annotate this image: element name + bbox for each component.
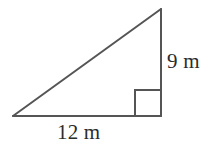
triangle-figure: 9 m 12 m [0, 0, 222, 147]
triangle-drawing [0, 0, 222, 147]
horizontal-leg-label: 12 m [57, 122, 100, 143]
right-angle-marker-icon [135, 90, 161, 116]
vertical-leg-label: 9 m [167, 51, 200, 72]
hypotenuse-line [13, 9, 161, 116]
